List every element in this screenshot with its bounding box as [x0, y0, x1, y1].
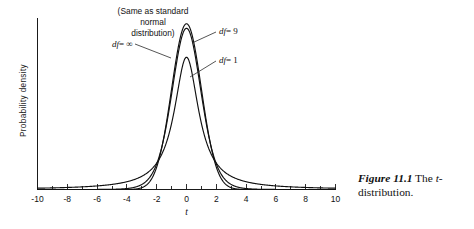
- x-axis-tick-label: 6: [274, 194, 279, 204]
- normal-note-line-1: (Same as standard: [108, 6, 198, 17]
- label-df-9-value: = 9: [226, 26, 238, 36]
- label-df-infinity-prefix: df: [112, 39, 119, 49]
- x-axis-tick-label: -6: [93, 194, 101, 204]
- label-df-1: df= 1: [219, 55, 238, 65]
- axes-group: [38, 18, 336, 190]
- leader-line-df-inf: [135, 44, 171, 58]
- label-df-1-value: = 1: [226, 55, 238, 65]
- y-axis-title: Probability density: [19, 31, 28, 171]
- curve-df-9: [38, 28, 336, 189]
- label-df-9: df= 9: [219, 26, 238, 36]
- x-axis-tick-labels: -10-8-6-4-20246810: [31, 194, 340, 204]
- curve-df-infinity: [38, 24, 336, 190]
- x-axis-tick-label: 0: [184, 194, 189, 204]
- x-axis-tick-label: 4: [244, 194, 249, 204]
- x-axis-tick-label: 10: [331, 194, 341, 204]
- x-axis-tick-label: -8: [64, 194, 72, 204]
- label-df-infinity-value: = ∞: [119, 39, 133, 49]
- x-axis-tick-label: -4: [123, 194, 131, 204]
- label-df-1-prefix: df: [219, 55, 226, 65]
- leader-line-df-1: [190, 61, 216, 77]
- x-axis-tick-label: -2: [153, 194, 161, 204]
- x-axis-tick-label: -10: [31, 194, 44, 204]
- figure-container: -10-8-6-4-20246810 t Probability density…: [0, 0, 474, 229]
- figure-number: Figure 11.1: [358, 172, 412, 184]
- label-df-9-prefix: df: [219, 26, 226, 36]
- distribution-curves: [38, 24, 336, 190]
- x-axis-title: t: [185, 207, 188, 217]
- x-axis-tick-label: 8: [303, 194, 308, 204]
- normal-note-line-2: normal: [108, 17, 198, 28]
- normal-note-line-3: distribution): [108, 28, 198, 39]
- curve-df-1: [38, 57, 336, 188]
- figure-caption: Figure 11.1 The t-distribution.: [358, 171, 474, 199]
- label-df-infinity: df= ∞: [112, 39, 133, 49]
- normal-distribution-note: (Same as standard normal distribution): [108, 6, 198, 39]
- x-axis-tick-label: 2: [214, 194, 219, 204]
- caption-text-part1: The: [415, 172, 436, 184]
